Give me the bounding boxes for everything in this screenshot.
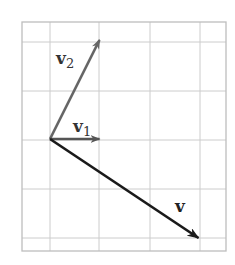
- vector-diagram: v2 v1 v: [0, 0, 235, 265]
- label-v1: v1: [72, 116, 91, 139]
- label-v2: v2: [55, 48, 74, 71]
- label-v: v: [174, 196, 186, 216]
- labels: v2 v1 v: [55, 48, 186, 216]
